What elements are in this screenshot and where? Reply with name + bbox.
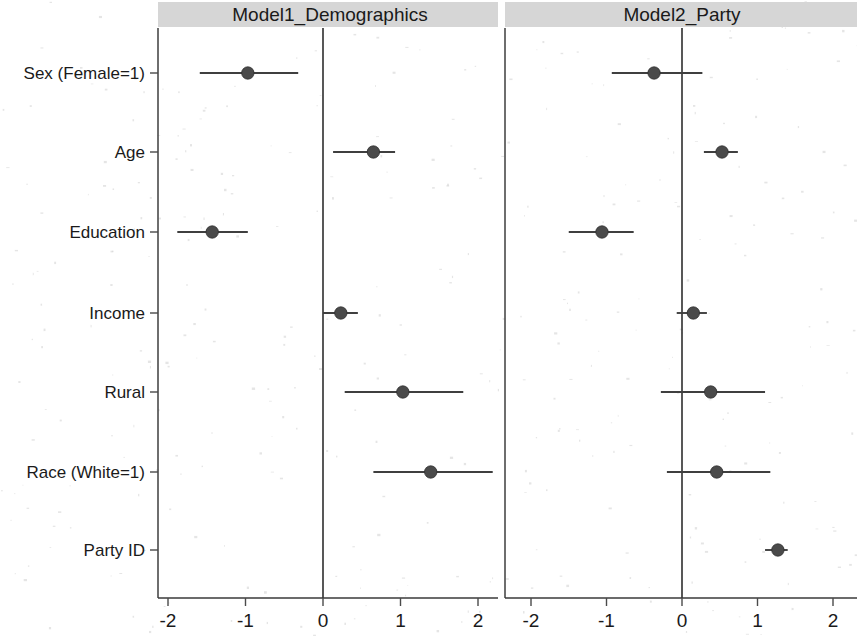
estimate-point-left-4 (397, 386, 409, 398)
x-tick-label-right-3: 1 (752, 610, 763, 631)
y-axis-label-2: Education (69, 223, 145, 242)
estimate-point-right-0 (648, 67, 660, 79)
x-tick-label-right-0: -2 (523, 610, 540, 631)
panel-title-model2: Model2_Party (623, 4, 741, 26)
y-axis-label-4: Rural (104, 383, 145, 402)
x-tick-label-left-0: -2 (160, 610, 177, 631)
panel-axes-left: -2-1012 (158, 28, 498, 631)
coefficient-plot-figure: Model1_DemographicsModel2_Party-2-1012-2… (0, 0, 857, 636)
panel-strip-model1: Model1_Demographics (158, 2, 498, 27)
x-tick-label-right-2: 0 (677, 610, 688, 631)
estimate-point-left-3 (335, 307, 347, 319)
y-axis-labels: Sex (Female=1)AgeEducationIncomeRuralRac… (24, 64, 158, 560)
series-left (177, 67, 492, 478)
y-axis-label-1: Age (115, 143, 145, 162)
panel-strip-model2: Model2_Party (505, 2, 857, 27)
estimate-point-right-3 (687, 307, 699, 319)
estimate-point-left-0 (242, 67, 254, 79)
estimate-point-right-2 (596, 226, 608, 238)
x-tick-label-right-1: -1 (598, 610, 615, 631)
plot-canvas: Model1_DemographicsModel2_Party-2-1012-2… (0, 0, 857, 636)
x-tick-label-left-3: 1 (395, 610, 406, 631)
x-tick-label-left-1: -1 (237, 610, 254, 631)
series-right (569, 67, 788, 556)
x-tick-label-left-2: 0 (318, 610, 329, 631)
y-axis-label-5: Race (White=1) (26, 463, 145, 482)
estimate-point-left-1 (367, 146, 379, 158)
estimate-point-right-5 (711, 466, 723, 478)
estimate-point-right-6 (772, 544, 784, 556)
y-axis-label-3: Income (89, 304, 145, 323)
x-tick-label-left-4: 2 (473, 610, 484, 631)
x-tick-label-right-4: 2 (828, 610, 839, 631)
estimate-point-left-5 (425, 466, 437, 478)
y-axis-label-6: Party ID (84, 541, 145, 560)
estimate-point-right-1 (716, 146, 728, 158)
estimate-point-left-2 (206, 226, 218, 238)
y-axis-label-0: Sex (Female=1) (24, 64, 145, 83)
panel-title-model1: Model1_Demographics (232, 4, 427, 26)
estimate-point-right-4 (704, 386, 716, 398)
